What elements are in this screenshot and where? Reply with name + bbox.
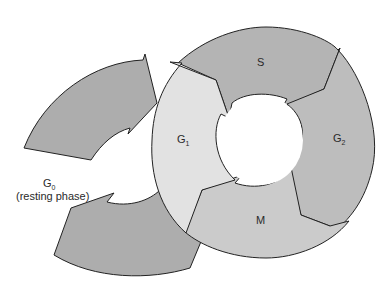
label-m: M <box>256 214 265 226</box>
ring-center-hole <box>219 95 303 185</box>
cell-cycle-diagram: S G1 G2 M G0 (resting phase) <box>0 0 381 292</box>
label-s: S <box>257 56 264 68</box>
g0-exit-arrow <box>24 54 157 160</box>
label-resting-phase: (resting phase) <box>16 190 89 202</box>
label-g0: G0 <box>43 177 56 191</box>
